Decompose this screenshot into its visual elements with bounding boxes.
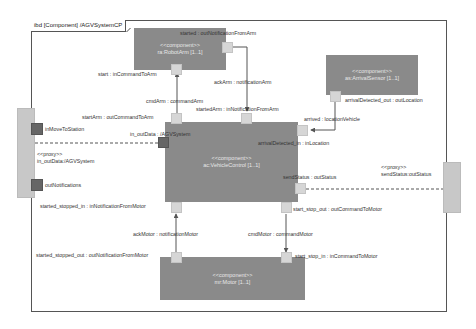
- port-mr-started-stopped-out[interactable]: [171, 252, 182, 263]
- label-ac-started-stopped-in: started_stopped_in : inNotificationFromM…: [40, 203, 146, 209]
- component-name: ra:RobotArm [1..1]: [158, 49, 203, 56]
- label-ac-send-status: sendStatus : outStatus: [283, 174, 336, 180]
- right-proxy-port[interactable]: [443, 162, 461, 213]
- component-stereotype: <<component>>: [211, 155, 251, 162]
- label-ac-start-stop-out: start_stop_out : outCommandToMotor: [293, 206, 382, 212]
- label-ac-in-out-data: in_outData : /AGVSystem: [130, 131, 190, 137]
- label-ra-start: start : inCommandToArm: [98, 71, 157, 77]
- label-as-arrival-out: arrivalDetected_out : outLocation: [345, 97, 423, 103]
- port-ra-started[interactable]: [222, 42, 233, 53]
- component-mr-motor[interactable]: <<component>> mr:Motor [1..1]: [160, 257, 305, 300]
- label-connector-arrived: arrived : locationVehicle: [304, 116, 360, 122]
- label-connector-cmd-motor: cmdMotor : commandMotor: [248, 231, 313, 237]
- label-right-proxy-name: sendStatus:outStatus: [381, 171, 431, 177]
- port-ra-start[interactable]: [171, 64, 182, 75]
- component-as-arrival-sensor[interactable]: <<component>> as:ArrivalSensor [1..1]: [326, 55, 418, 95]
- label-left-proxy-name: in_outData:/AGVSystem: [37, 158, 94, 164]
- port-ac-start-stop-out[interactable]: [281, 202, 292, 213]
- port-ac-arrival-in[interactable]: [297, 125, 308, 136]
- label-connector-ack-motor: ackMotor : notificationMotor: [133, 231, 198, 237]
- label-connector-cmd-arm: cmdArm : commandArm: [146, 98, 203, 104]
- label-right-proxy-stereotype: <<proxy>>: [381, 164, 406, 170]
- port-in-move-to-station[interactable]: [31, 123, 43, 135]
- component-name: ac:VehicleControl [1..1]: [203, 162, 260, 169]
- component-stereotype: <<component>>: [160, 42, 200, 49]
- port-ac-in-out-data[interactable]: [158, 137, 169, 148]
- component-stereotype: <<component>>: [212, 272, 252, 279]
- port-out-notifications[interactable]: [31, 179, 43, 191]
- component-stereotype: <<component>>: [352, 68, 392, 75]
- port-ac-start-arm[interactable]: [171, 113, 182, 124]
- port-ac-send-status[interactable]: [295, 183, 306, 194]
- label-ra-started: started : outNotificationFromArm: [180, 30, 256, 36]
- port-ac-started-stopped-in[interactable]: [171, 202, 182, 213]
- port-ac-started-arm[interactable]: [241, 113, 252, 124]
- label-connector-ack-arm: ackArm : notificationArm: [214, 79, 271, 85]
- label-in-move-to-station: inMoveToStation: [45, 126, 84, 132]
- port-mr-start-stop-in[interactable]: [281, 252, 292, 263]
- component-name: mr:Motor [1..1]: [215, 279, 251, 286]
- port-as-arrival-out[interactable]: [330, 91, 341, 102]
- label-ac-start-arm: startArm : outCommandToArm: [82, 114, 154, 120]
- frame-title: ibd [Component] /AGVSystemCP: [31, 20, 126, 32]
- label-ac-started-arm: startedArm : inNotificationFromArm: [196, 106, 279, 112]
- label-ac-arrival-in: arrivalDetected_in : inLocation: [258, 140, 329, 146]
- label-mr-started-stopped-out: started_stopped_out : outNotificationFro…: [36, 252, 148, 258]
- component-name: as:ArrivalSensor [1..1]: [345, 75, 399, 82]
- label-mr-start-stop-in: start_stop_in : inCommandToMotor: [295, 253, 377, 259]
- label-out-notifications: outNotifications: [45, 182, 81, 188]
- label-left-proxy-stereotype: <<proxy>>: [37, 151, 62, 157]
